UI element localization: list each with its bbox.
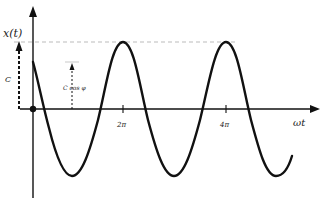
amplitude-arrow-head-icon [16,41,23,51]
x-axis-label: ωt [293,117,306,128]
y-axis-arrow-icon [29,6,37,17]
oscillation-diagram: x(t) ωt C C cos φ 2π 4π [0,0,327,207]
tick-label-4pi: 4π [219,121,229,129]
origin-dot [30,106,36,112]
initial-value-label: C cos φ [63,84,86,92]
amplitude-label: C [5,75,11,84]
y-axis-label: x(t) [3,27,22,40]
tick-label-2pi: 2π [116,121,126,129]
initial-value-arrow-head-icon [70,63,75,70]
x-axis-arrow-icon [310,105,320,113]
